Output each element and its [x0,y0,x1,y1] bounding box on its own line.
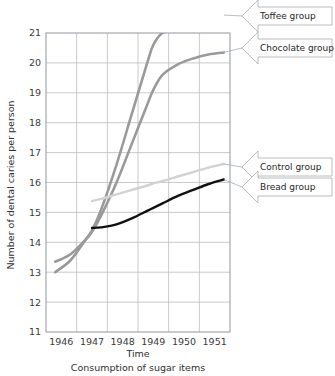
series-lines [55,15,224,272]
y-tick-15: 15 [29,207,41,218]
callout-leader-line [224,180,242,187]
x-tick-1948: 1948 [111,336,135,347]
callout-leader-line [224,164,242,167]
y-tick-13: 13 [29,267,41,278]
y-axis-tick-labels: 1112131415161718192021 [29,27,41,337]
y-tick-18: 18 [29,117,41,128]
callout-chocolate-group: Chocolate group [224,32,334,64]
y-tick-11: 11 [29,326,41,337]
chart-caption: Consumption of sugar items [71,362,205,373]
y-tick-16: 16 [29,177,41,188]
x-axis-title: Time [125,348,149,359]
y-tick-19: 19 [29,87,41,98]
x-tick-1951: 1951 [203,336,227,347]
chart-figure: 1112131415161718192021 19461947194819491… [0,0,335,376]
callout-toffee-group: Toffee group [224,0,332,32]
callout-leader-line [224,48,242,52]
x-axis-tick-labels: 194619471948194919501951 [49,336,227,347]
series-line-bread-group [92,180,224,228]
dental-caries-line-chart: 1112131415161718192021 19461947194819491… [0,0,335,376]
callout-label: Toffee group [259,11,316,21]
y-tick-21: 21 [29,27,41,38]
y-axis-title: Number of dental caries per person [5,100,16,269]
callout-label: Control group [260,162,322,172]
callout-label: Bread group [260,182,316,192]
x-tick-1950: 1950 [172,336,196,347]
y-tick-20: 20 [29,57,41,68]
y-tick-14: 14 [29,237,41,248]
callout-label: Chocolate group [260,43,334,53]
y-tick-12: 12 [29,297,41,308]
y-tick-17: 17 [29,147,41,158]
series-callouts: Toffee groupChocolate groupControl group… [224,0,334,203]
x-tick-1946: 1946 [49,336,73,347]
x-tick-1949: 1949 [141,336,165,347]
series-line-toffee-group [55,15,224,272]
callout-leader-line [224,15,242,16]
x-tick-1947: 1947 [80,336,104,347]
